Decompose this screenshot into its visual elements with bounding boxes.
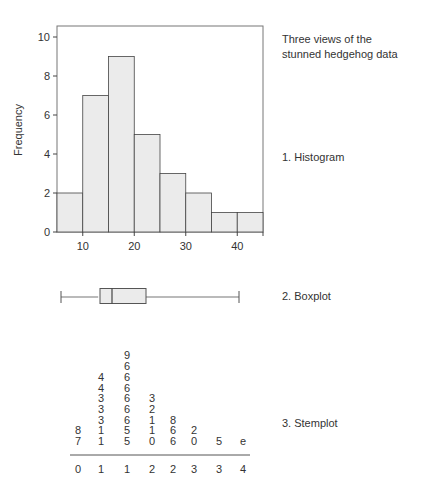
stemplot-stem: 1 xyxy=(98,463,104,475)
stemplot-leaf: e xyxy=(240,435,246,447)
histogram-bar xyxy=(109,57,135,233)
stemplot-leaf: 8 xyxy=(170,414,176,426)
stemplot-leaf: 2 xyxy=(191,424,197,436)
y-tick-label: 0 xyxy=(44,226,50,238)
stemplot-stem: 0 xyxy=(75,463,81,475)
stemplot-label: 3. Stemplot xyxy=(282,417,338,429)
figure-title-line1: Three views of the xyxy=(282,32,398,47)
stemplot-leaf: 5 xyxy=(124,424,130,436)
stemplot-leaf: 1 xyxy=(98,424,104,436)
y-tick-label: 4 xyxy=(44,148,50,160)
stemplot-stem: 1 xyxy=(124,463,130,475)
stemplot-stem: 4 xyxy=(240,463,246,475)
histogram-bar xyxy=(83,96,109,233)
figure-title: Three views of the stunned hedgehog data xyxy=(282,32,398,62)
stemplot-leaf: 9 xyxy=(124,349,130,361)
stemplot-leaf: 3 xyxy=(98,392,104,404)
stemplot-leaf: 4 xyxy=(98,382,104,394)
figure-canvas: 024681010203040Frequency7801133344155666… xyxy=(0,0,422,496)
y-tick-label: 6 xyxy=(44,109,50,121)
stemplot-leaf: 6 xyxy=(124,414,130,426)
stemplot-leaf: 3 xyxy=(98,414,104,426)
stemplot-leaf: 3 xyxy=(98,403,104,415)
y-tick-label: 2 xyxy=(44,187,50,199)
stemplot-leaf: 6 xyxy=(124,371,130,383)
stemplot-stem: 2 xyxy=(149,463,155,475)
stemplot-leaf: 6 xyxy=(124,403,130,415)
stemplot-leaf: 5 xyxy=(216,435,222,447)
histogram-bar xyxy=(212,213,238,233)
stemplot-leaf: 4 xyxy=(98,371,104,383)
histogram-bar xyxy=(160,174,186,233)
stemplot-leaf: 2 xyxy=(149,403,155,415)
x-tick-label: 20 xyxy=(128,240,140,252)
histogram-label: 1. Histogram xyxy=(282,151,344,163)
histogram-bar xyxy=(57,193,83,232)
stemplot-leaf: 1 xyxy=(149,414,155,426)
stemplot-leaf: 6 xyxy=(170,435,176,447)
stemplot-leaf: 5 xyxy=(124,435,130,447)
stemplot-leaf: 0 xyxy=(149,435,155,447)
stemplot-leaf: 6 xyxy=(170,424,176,436)
stemplot-leaf: 6 xyxy=(124,392,130,404)
stemplot-leaf: 1 xyxy=(149,424,155,436)
stemplot-stem: 2 xyxy=(170,463,176,475)
stemplot-leaf: 3 xyxy=(149,392,155,404)
histogram-bar xyxy=(134,135,160,233)
stemplot-leaf: 6 xyxy=(124,360,130,372)
stemplot-leaf: 6 xyxy=(124,382,130,394)
x-tick-label: 30 xyxy=(180,240,192,252)
x-tick-label: 10 xyxy=(77,240,89,252)
x-tick-label: 40 xyxy=(231,240,243,252)
boxplot-box xyxy=(100,289,146,304)
boxplot-label: 2. Boxplot xyxy=(282,290,331,302)
stemplot-leaf: 8 xyxy=(75,424,81,436)
stemplot-stem: 3 xyxy=(191,463,197,475)
figure-title-line2: stunned hedgehog data xyxy=(282,47,398,62)
stemplot-leaf: 7 xyxy=(75,435,81,447)
y-tick-label: 10 xyxy=(38,31,50,43)
stemplot-leaf: 1 xyxy=(98,435,104,447)
stemplot-stem: 3 xyxy=(216,463,222,475)
y-tick-label: 8 xyxy=(44,70,50,82)
y-axis-label: Frequency xyxy=(12,104,24,156)
histogram-bar xyxy=(186,193,212,232)
histogram-bar xyxy=(237,213,263,233)
stemplot-leaf: 0 xyxy=(191,435,197,447)
